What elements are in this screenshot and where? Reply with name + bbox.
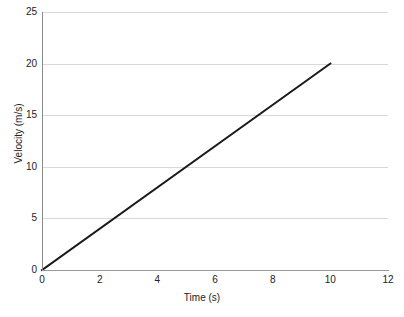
y-tick-label-25: 25 [26, 7, 37, 17]
velocity-time-chart: 25 20 15 10 5 0 Velocity (m/s) 0 2 4 6 8… [0, 0, 404, 317]
y-tick-label-5: 5 [31, 213, 37, 223]
x-tick-label-8: 8 [270, 275, 276, 285]
x-axis-title: Time (s) [0, 292, 404, 303]
x-tick-label-0: 0 [39, 275, 45, 285]
y-tick-label-20: 20 [26, 59, 37, 69]
y-tick-label-15: 15 [26, 110, 37, 120]
y-axis-title: Velocity (m/s) [13, 64, 24, 204]
x-tick-label-4: 4 [155, 275, 161, 285]
x-axis-spine [42, 270, 389, 271]
x-tick-label-10: 10 [325, 275, 336, 285]
y-tick-label-0: 0 [31, 265, 37, 275]
x-tick-label-2: 2 [97, 275, 103, 285]
y-axis-spine [42, 12, 43, 271]
x-tick-label-6: 6 [212, 275, 218, 285]
x-tick-label-12: 12 [382, 275, 393, 285]
y-tick-label-10: 10 [26, 162, 37, 172]
series-velocity-line [42, 12, 388, 270]
plot-area [42, 12, 388, 270]
